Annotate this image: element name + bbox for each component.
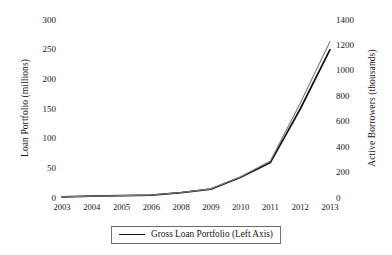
chart-container: Loan Portfolio (millions) Active Borrowe… (0, 0, 392, 255)
legend-entry-label: Gross Loan Portfolio (Left Axis) (151, 229, 273, 240)
plot-area (0, 0, 392, 255)
chart-legend: Gross Loan Portfolio (Left Axis) (111, 226, 281, 244)
legend-line-swatch-icon (119, 234, 145, 235)
series-line-2 (62, 42, 330, 197)
plot-svg (0, 0, 392, 255)
